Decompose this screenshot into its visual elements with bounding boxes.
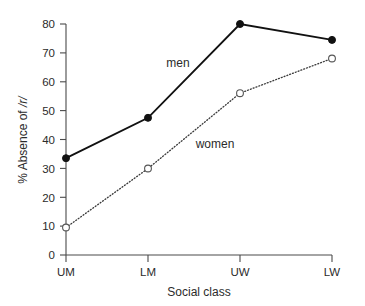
- data-point-women-uw: [237, 90, 244, 97]
- y-tick-label-30: 30: [42, 163, 55, 175]
- y-axis-ticks: [60, 24, 66, 255]
- y-axis-title: % Absence of /r/: [16, 95, 30, 184]
- y-tick-label-80: 80: [42, 18, 55, 30]
- y-tick-label-10: 10: [42, 220, 55, 232]
- x-tick-label-uw: UW: [230, 266, 249, 278]
- x-axis-tick-labels: UM LM UW LW: [57, 266, 340, 278]
- data-point-men-um: [63, 155, 70, 162]
- data-point-women-um: [63, 224, 70, 231]
- x-tick-label-lm: LM: [140, 266, 156, 278]
- x-axis-title: Social class: [167, 285, 230, 299]
- chart-container: 0 10 20 30 40 50 60 70 80 UM LM UW LW So…: [0, 0, 365, 306]
- y-tick-label-60: 60: [42, 76, 55, 88]
- x-tick-label-lw: LW: [324, 266, 341, 278]
- data-point-women-lw: [329, 55, 336, 62]
- data-point-men-uw: [237, 21, 244, 28]
- data-point-women-lm: [145, 165, 152, 172]
- x-tick-label-um: UM: [57, 266, 75, 278]
- y-tick-label-50: 50: [42, 105, 55, 117]
- y-tick-label-0: 0: [49, 249, 55, 261]
- series-annotation-men: men: [166, 56, 189, 70]
- x-axis-ticks: [66, 255, 332, 262]
- data-point-men-lm: [145, 114, 152, 121]
- y-tick-label-20: 20: [42, 192, 55, 204]
- data-point-men-lw: [329, 36, 336, 43]
- series-annotation-women: women: [195, 137, 235, 151]
- y-axis-title-prefix: % Absence of: [16, 107, 30, 184]
- y-axis-tick-labels: 0 10 20 30 40 50 60 70 80: [42, 18, 55, 261]
- y-tick-label-40: 40: [42, 134, 55, 146]
- svg-text:% Absence of /r/: % Absence of /r/: [16, 95, 30, 184]
- line-chart-plot: 0 10 20 30 40 50 60 70 80 UM LM UW LW So…: [0, 0, 365, 306]
- y-tick-label-70: 70: [42, 47, 55, 59]
- y-axis-title-phoneme: /r/: [16, 95, 30, 108]
